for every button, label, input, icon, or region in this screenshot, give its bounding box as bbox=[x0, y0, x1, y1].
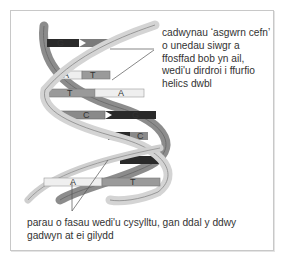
svg-text:T: T bbox=[67, 88, 73, 98]
svg-text:A: A bbox=[70, 177, 76, 187]
backbone-label: cadwynau ‘asgwrn cefn’ o unedau siwgr a … bbox=[162, 27, 272, 91]
svg-text:T: T bbox=[90, 70, 96, 80]
svg-text:G: G bbox=[132, 110, 139, 120]
svg-text:C: C bbox=[83, 110, 90, 120]
leader-line-backbone-2 bbox=[112, 50, 154, 80]
base-pairs-label: parau o fasau wedi'u cysylltu, gan ddal … bbox=[27, 216, 267, 242]
base-letter: G bbox=[57, 38, 64, 48]
svg-text:T: T bbox=[130, 177, 136, 187]
base-pair-7: A T bbox=[44, 177, 160, 187]
svg-text:A: A bbox=[118, 88, 124, 98]
base-pair-3: T A bbox=[43, 88, 144, 98]
